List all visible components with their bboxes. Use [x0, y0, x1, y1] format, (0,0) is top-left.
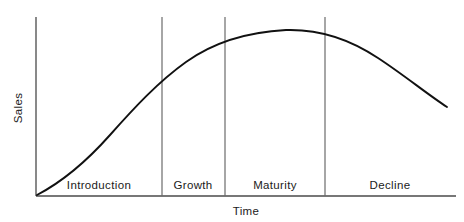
stage-label-growth: Growth [173, 179, 212, 191]
diagram-canvas: Sales Time Introduction Growth Maturity … [0, 0, 464, 222]
product-life-cycle-diagram: Sales Time Introduction Growth Maturity … [0, 0, 464, 222]
stage-label-introduction: Introduction [67, 179, 131, 191]
y-axis-label: Sales [12, 93, 24, 124]
x-axis-label: Time [233, 205, 260, 217]
sales-curve [37, 30, 447, 195]
stage-label-maturity: Maturity [253, 179, 297, 191]
stage-label-decline: Decline [370, 179, 411, 191]
